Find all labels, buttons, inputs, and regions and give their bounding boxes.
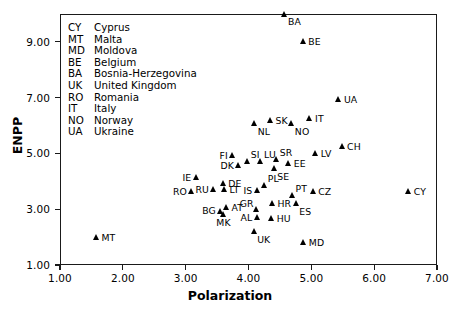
legend-item: ITItaly: [68, 103, 197, 115]
triangle-marker-icon: [235, 162, 241, 168]
legend-item-code: UK: [68, 80, 94, 92]
triangle-marker-icon: [221, 186, 227, 192]
triangle-marker-icon: [271, 165, 277, 171]
x-tick-label: 6.00: [349, 272, 399, 284]
data-point-label: ES: [299, 207, 311, 216]
triangle-marker-icon: [220, 180, 226, 186]
x-tick-label: 3.00: [161, 272, 211, 284]
data-point-label: PL: [268, 174, 279, 183]
triangle-marker-icon: [268, 215, 274, 221]
x-tick-label: 2.00: [98, 272, 148, 284]
triangle-marker-icon: [251, 120, 257, 126]
data-point-label: CY: [414, 187, 426, 196]
data-point-label: GR: [240, 199, 254, 208]
data-point-label: RO: [173, 187, 187, 196]
triangle-marker-icon: [310, 188, 316, 194]
x-axis-label: Polarization: [0, 288, 460, 303]
legend-item: UAUkraine: [68, 126, 197, 138]
x-tick: [185, 265, 186, 270]
data-point-label: SI: [251, 150, 260, 159]
legend-item-name: Ukraine: [94, 126, 197, 138]
data-point-label: HU: [277, 214, 291, 223]
data-point-label: LT: [230, 185, 240, 194]
legend-item-name: United Kingdom: [94, 80, 197, 92]
data-point-label: IT: [315, 114, 324, 123]
data-point-label: SK: [275, 116, 287, 125]
triangle-marker-icon: [293, 200, 299, 206]
data-point-label: AL: [241, 213, 253, 222]
data-point-label: MT: [101, 233, 115, 242]
triangle-marker-icon: [300, 38, 306, 44]
triangle-marker-icon: [285, 160, 291, 166]
data-point-label: DK: [221, 161, 234, 170]
data-point-label: UA: [344, 95, 357, 104]
data-point-label: CH: [347, 142, 361, 151]
triangle-marker-icon: [312, 150, 318, 156]
legend-item-code: IT: [68, 103, 94, 115]
data-point-label: MD: [309, 238, 324, 247]
triangle-marker-icon: [267, 117, 273, 123]
triangle-marker-icon: [405, 188, 411, 194]
x-tick-label: 1.00: [35, 272, 85, 284]
data-point-label: RU: [195, 185, 208, 194]
triangle-marker-icon: [306, 115, 312, 121]
data-point-label: LV: [321, 149, 332, 158]
x-tick: [122, 265, 123, 270]
legend-item: CYCyprus: [68, 22, 197, 34]
triangle-marker-icon: [254, 187, 260, 193]
legend-item: RORomania: [68, 92, 197, 104]
x-tick: [59, 265, 60, 270]
triangle-marker-icon: [229, 152, 235, 158]
x-tick: [311, 265, 312, 270]
y-axis-label: ENPP: [10, 91, 25, 181]
legend-item-code: UA: [68, 126, 94, 138]
triangle-marker-icon: [254, 214, 260, 220]
x-tick: [374, 265, 375, 270]
data-point-label: BG: [202, 206, 216, 215]
data-point-label: BA: [288, 17, 301, 26]
data-point-label: IE: [183, 173, 192, 182]
data-point-label: NL: [258, 127, 270, 136]
triangle-marker-icon: [220, 211, 226, 217]
x-tick: [436, 265, 437, 270]
data-point-label: SR: [280, 148, 293, 157]
y-tick-label: 1.00: [10, 259, 50, 271]
x-tick: [248, 265, 249, 270]
legend-item-name: Cyprus: [94, 22, 197, 34]
data-point-label: PT: [295, 184, 307, 193]
y-tick-label: 9.00: [10, 36, 50, 48]
data-point-label: CZ: [318, 187, 331, 196]
triangle-marker-icon: [193, 174, 199, 180]
triangle-marker-icon: [339, 143, 345, 149]
triangle-marker-icon: [188, 188, 194, 194]
triangle-marker-icon: [251, 228, 257, 234]
data-point-label: UK: [257, 235, 270, 244]
data-point-label: HR: [277, 199, 291, 208]
x-tick-label: 4.00: [224, 272, 274, 284]
triangle-marker-icon: [300, 239, 306, 245]
legend-item-code: CY: [68, 22, 94, 34]
triangle-marker-icon: [269, 200, 275, 206]
data-point-label: NO: [295, 127, 309, 136]
data-point-label: MK: [216, 218, 230, 227]
triangle-marker-icon: [288, 120, 294, 126]
triangle-marker-icon: [223, 204, 229, 210]
legend-item-name: Italy: [94, 103, 197, 115]
triangle-marker-icon: [261, 182, 267, 188]
triangle-marker-icon: [281, 11, 287, 17]
legend-item: UKUnited Kingdom: [68, 80, 197, 92]
scatter-plot-figure: 1.002.003.004.005.006.007.00 1.003.005.0…: [0, 0, 460, 310]
data-point-label: BE: [308, 37, 320, 46]
triangle-marker-icon: [244, 158, 250, 164]
data-point-label: LU: [264, 150, 276, 159]
data-point-label: IS: [243, 186, 252, 195]
data-point-label: SE: [277, 172, 289, 181]
y-tick-label: 3.00: [10, 203, 50, 215]
x-tick-label: 7.00: [412, 272, 460, 284]
triangle-marker-icon: [289, 192, 295, 198]
legend: CYCyprusMTMaltaMDMoldovaBEBelgiumBABosni…: [68, 22, 197, 138]
x-tick-label: 5.00: [286, 272, 336, 284]
triangle-marker-icon: [335, 96, 341, 102]
triangle-marker-icon: [210, 186, 216, 192]
data-point-label: EE: [294, 159, 306, 168]
